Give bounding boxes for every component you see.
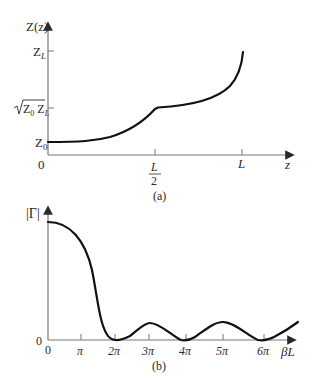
y-axis-label-a: Z(z) [26, 19, 48, 34]
y-origin-label-b: 0 [36, 334, 42, 348]
tick-label-l-half: L 2 [149, 160, 161, 188]
tick-label-4pi: 4π [179, 344, 192, 358]
caption-a: (a) [153, 189, 166, 203]
tick-label-2pi: 2π [108, 344, 121, 358]
impedance-curve [48, 52, 243, 142]
reflection-curve [48, 222, 298, 340]
tick-label-zl: ZL [33, 44, 46, 61]
y-axis-label-b: |Γ| [26, 206, 40, 221]
tick-label-l: L [237, 156, 245, 171]
origin-label-a: 0 [38, 157, 45, 172]
tick-label-pi: π [77, 344, 84, 358]
tick-label-z0: Z0 [35, 135, 48, 152]
caption-b: (b) [152, 359, 166, 373]
svg-text:L: L [150, 160, 158, 174]
svg-text:2: 2 [151, 174, 157, 188]
tick-label-6pi: 6π [257, 344, 270, 358]
x-axis-label-b: βL [280, 344, 295, 359]
figure-canvas: Z(z) ZL Z0 ZL Z0 0 L 2 L z (a) [0, 0, 313, 378]
tick-label-3pi: 3π [141, 344, 155, 358]
tick-label-5pi: 5π [216, 344, 229, 358]
figure-b: |Γ| 0 0 π 2π 3π 4π 5π 6π βL (b) [26, 206, 298, 373]
x-origin-label-b: 0 [45, 343, 51, 357]
svg-text:Z0 ZL: Z0 ZL [23, 102, 50, 118]
x-axis-label-a: z [284, 157, 290, 172]
tick-label-sqrt: Z0 ZL [14, 100, 50, 118]
figure-a: Z(z) ZL Z0 ZL Z0 0 L 2 L z (a) [14, 19, 290, 203]
